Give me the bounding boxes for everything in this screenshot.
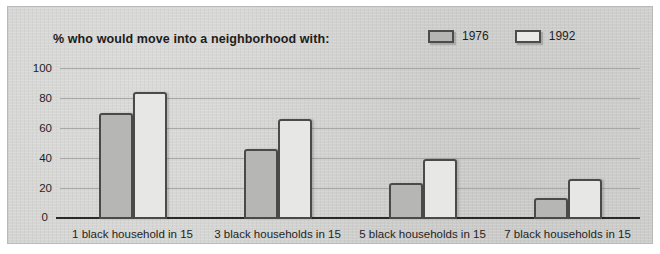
legend-label-1976: 1976 (462, 29, 489, 43)
bars (350, 69, 495, 219)
y-axis-tick-label: 80 (39, 92, 52, 104)
legend-swatch-icon-1992 (515, 30, 541, 43)
bars (495, 69, 640, 219)
chart-page: % who would move into a neighborhood wit… (0, 0, 660, 254)
bar-1992 (423, 159, 457, 219)
bar-1992 (278, 119, 312, 220)
bar-1976 (244, 149, 278, 220)
x-axis-category-label: 3 black households in 15 (205, 228, 350, 240)
bars (60, 69, 205, 219)
bar-1992 (133, 92, 167, 220)
legend-swatch-icon-1976 (428, 30, 454, 43)
y-axis-tick-label: 100 (33, 62, 52, 74)
bar-1976 (99, 113, 133, 220)
y-axis-tick-label: 0 (42, 211, 48, 223)
bar-1992 (568, 179, 602, 220)
bar-group: 3 black households in 15 (205, 69, 350, 219)
bars (205, 69, 350, 219)
bar-group: 7 black households in 15 (495, 69, 640, 219)
page-title: % who would move into a neighborhood wit… (53, 32, 329, 46)
bar-1976 (389, 183, 423, 219)
bar-groups: 1 black household in 153 black household… (60, 69, 640, 219)
chart-legend: 1976 1992 (428, 29, 575, 43)
bar-group: 1 black household in 15 (60, 69, 205, 219)
bar-1976 (534, 198, 568, 219)
legend-label-1992: 1992 (549, 29, 576, 43)
y-axis-tick-label: 40 (39, 152, 52, 164)
y-axis-tick-label: 60 (39, 122, 52, 134)
x-axis-category-label: 5 black households in 15 (350, 228, 495, 240)
legend-item-1992: 1992 (515, 29, 576, 43)
x-axis-category-label: 1 black household in 15 (60, 228, 205, 240)
bar-group: 5 black households in 15 (350, 69, 495, 219)
plot-area: 020406080100 1 black household in 153 bl… (60, 69, 640, 219)
x-axis-category-label: 7 black households in 15 (495, 228, 640, 240)
y-axis-tick-label: 20 (39, 182, 52, 194)
chart-panel: % who would move into a neighborhood wit… (7, 6, 653, 244)
legend-item-1976: 1976 (428, 29, 489, 43)
